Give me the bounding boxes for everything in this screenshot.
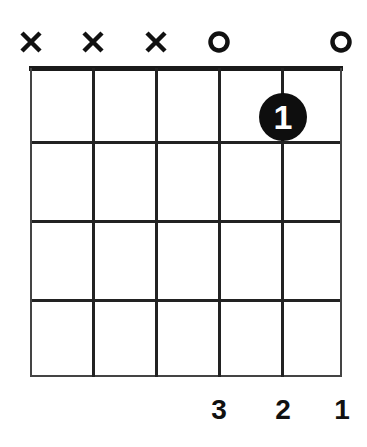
finger-dot-label: 1 — [274, 98, 293, 137]
string-line-1 — [340, 68, 342, 377]
finger-label-string-2: 2 — [275, 394, 291, 426]
finger-label-string-3: 3 — [211, 394, 227, 426]
string-line-6 — [30, 68, 32, 377]
string-line-5 — [92, 68, 95, 377]
nut — [29, 66, 343, 71]
fret-line-1 — [30, 141, 342, 144]
muted-string-icon — [19, 30, 43, 54]
open-string-icon — [329, 30, 353, 54]
muted-string-icon — [144, 30, 168, 54]
muted-string-icon — [81, 30, 105, 54]
string-line-4 — [155, 68, 158, 377]
finger-dot: 1 — [259, 93, 307, 141]
fret-line-3 — [30, 299, 342, 302]
fret-line-4 — [30, 375, 342, 377]
fret-line-2 — [30, 220, 342, 223]
open-string-icon — [207, 30, 231, 54]
string-line-3 — [218, 68, 221, 377]
finger-label-string-1: 1 — [334, 394, 350, 426]
